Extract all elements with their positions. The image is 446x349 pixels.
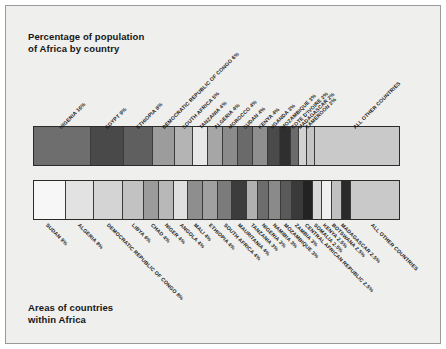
bar-segment: [351, 181, 399, 219]
bar-segment: [232, 181, 247, 219]
bar-segment: [322, 181, 332, 219]
bar-segment: [313, 181, 323, 219]
bar-segment: [238, 127, 253, 165]
bar-segment: [292, 181, 303, 219]
bar-segment: [253, 127, 268, 165]
bar-segment: [174, 181, 189, 219]
top-chart-title: Percentage of population of Africa by co…: [28, 31, 144, 54]
bar-segment: [34, 127, 91, 165]
chart-page: Percentage of population of Africa by co…: [0, 0, 446, 349]
bar-segment: [123, 181, 145, 219]
bar-segment: [268, 127, 280, 165]
bar-segment: [208, 127, 223, 165]
bar-segment: [203, 181, 218, 219]
area-stacked-bar: [33, 180, 400, 220]
bar-segment: [124, 127, 153, 165]
bar-segment: [258, 181, 269, 219]
bar-segment: [91, 127, 124, 165]
population-stacked-bar: [33, 126, 400, 166]
bar-segment: [291, 127, 299, 165]
bar-segment: [144, 181, 159, 219]
figure-frame: [5, 5, 441, 344]
bar-segment: [193, 127, 208, 165]
bar-segment: [280, 127, 292, 165]
bar-segment: [281, 181, 292, 219]
bar-segment: [34, 181, 66, 219]
bar-segment: [315, 127, 399, 165]
bar-segment: [94, 181, 122, 219]
bar-segment: [299, 127, 307, 165]
bar-segment: [223, 127, 238, 165]
bar-segment: [247, 181, 258, 219]
bar-segment: [153, 127, 175, 165]
bar-segment: [307, 127, 315, 165]
bar-segment: [175, 127, 194, 165]
bottom-chart-title: Areas of countries within Africa: [28, 302, 113, 325]
bar-segment: [66, 181, 94, 219]
bar-segment: [188, 181, 203, 219]
bar-segment: [332, 181, 342, 219]
bar-segment: [303, 181, 313, 219]
bar-segment: [218, 181, 233, 219]
bar-segment: [159, 181, 174, 219]
bar-segment: [342, 181, 352, 219]
bar-segment: [269, 181, 280, 219]
